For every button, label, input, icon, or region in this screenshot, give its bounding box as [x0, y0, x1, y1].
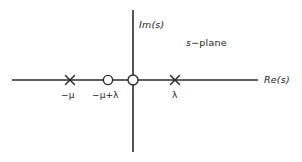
zero-label-minus-mu-plus-lambda: −μ+λ [92, 91, 119, 100]
zero-marker-origin [128, 75, 138, 85]
pole-label-minus-mu: −μ [61, 91, 74, 100]
real-axis-label: Re(s) [264, 75, 290, 85]
zero-marker-minus-mu-plus-lambda [103, 75, 112, 84]
s-plane-annotation: s−plane [186, 38, 227, 48]
s-plane-annotation-rest: −plane [191, 37, 227, 48]
s-plane-figure: Im(s) Re(s) s−plane −μ −μ+λ λ s-plane po… [0, 0, 302, 162]
imaginary-axis-label: Im(s) [139, 20, 164, 30]
pole-label-lambda: λ [172, 91, 177, 100]
